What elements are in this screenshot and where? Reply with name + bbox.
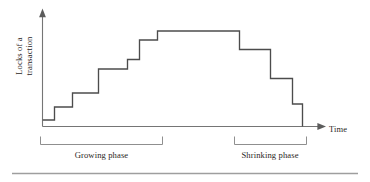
- y-axis-label-line-1: Locks of a: [14, 18, 24, 94]
- two-phase-locking-figure: Locks of a transaction Time Growing phas…: [0, 0, 370, 182]
- step-curve-path: [43, 31, 303, 127]
- lock-count-step-curve: [43, 31, 303, 127]
- y-axis-label: Locks of a transaction: [14, 18, 34, 94]
- axes-group: [39, 9, 326, 130]
- growing-phase-bracket: [41, 137, 163, 145]
- shrinking-phase-label: Shrinking phase: [233, 150, 307, 160]
- y-axis-arrowhead: [39, 9, 46, 18]
- phase-brackets-group: [41, 137, 307, 145]
- growing-phase-label: Growing phase: [40, 150, 163, 160]
- x-axis-arrowhead: [317, 123, 326, 130]
- shrinking-phase-bracket: [235, 137, 307, 145]
- y-axis-label-line-2: transaction: [24, 18, 34, 94]
- x-axis-label: Time: [329, 124, 347, 134]
